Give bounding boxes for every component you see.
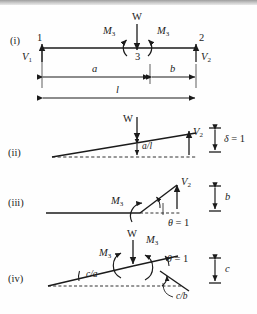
theta-value-iii: = 1 — [175, 217, 189, 228]
rotation-label-c-over-a: c/a — [86, 270, 98, 280]
panel-number-i: (i) — [10, 36, 20, 47]
panel-number-iv: (iv) — [8, 274, 23, 285]
m-subscript-left-i: 3 — [112, 30, 116, 38]
node-label-3: 3 — [135, 52, 140, 63]
scale-label-b: b — [225, 192, 230, 203]
m-glyph-left-i: M — [103, 25, 112, 36]
m-subscript-right-iv: 3 — [155, 239, 159, 247]
moment-label-m3-left-iv: M3 — [99, 248, 111, 260]
displaced-beam-ii — [52, 133, 196, 157]
rotated-segment-iii — [140, 185, 177, 213]
v-subscript-2-i: 2 — [207, 56, 211, 64]
m-subscript-right-i: 3 — [166, 30, 170, 38]
right-segment-lower-iv — [160, 271, 189, 291]
c-over-b-leader-line — [163, 283, 173, 297]
scale-label-c: c — [225, 264, 230, 275]
beam-mechanism-diagram — [0, 0, 257, 314]
reaction-label-v1: V1 — [22, 52, 32, 64]
dimension-label-a: a — [92, 64, 97, 75]
moment-m3-left-arc-iv — [113, 253, 121, 278]
m-glyph-right-i: M — [157, 25, 166, 36]
panel-iv-graphics — [48, 240, 221, 297]
load-label-w-iv: W — [127, 229, 137, 240]
delta-value: = 1 — [231, 133, 245, 144]
m-subscript-iii: 3 — [120, 200, 124, 208]
rotation-label-theta-iv: θ = 1 — [167, 254, 188, 265]
m-glyph-iii: M — [111, 195, 120, 206]
rotation-c-over-a-arc — [79, 271, 80, 281]
panel-i-graphics — [42, 24, 196, 98]
rotation-label-c-over-b: c/b — [176, 292, 188, 302]
delta-glyph: δ — [224, 133, 229, 144]
theta-value-iv: = 1 — [174, 253, 188, 264]
panel-number-iii: (iii) — [8, 198, 24, 209]
panel-number-ii: (ii) — [8, 148, 21, 159]
node-label-1: 1 — [37, 33, 42, 44]
moment-m3-right-arc-iv — [145, 255, 153, 280]
moment-label-m3-right-iv: M3 — [146, 235, 158, 247]
moment-label-m3-left-i: M3 — [103, 26, 115, 38]
panel-iii-graphics — [46, 185, 221, 222]
load-label-w-ii: W — [123, 114, 133, 125]
theta-glyph-iii: θ — [168, 217, 173, 228]
load-label-w-i: W — [132, 12, 142, 23]
ordinate-label-a-over-l: a/l — [142, 142, 152, 152]
node-label-2: 2 — [199, 33, 204, 44]
v-subscript-2-iii: 2 — [187, 181, 191, 189]
m-subscript-left-iv: 3 — [108, 252, 112, 260]
reaction-label-v2-i: V2 — [201, 52, 211, 64]
moment-label-m3-iii: M3 — [111, 196, 123, 208]
reaction-label-v2-ii: V2 — [193, 127, 203, 139]
v-subscript-1: 1 — [28, 56, 32, 64]
m-glyph-right-iv: M — [146, 234, 155, 245]
dimension-label-l: l — [116, 85, 119, 96]
rotation-label-theta-iii: θ = 1 — [168, 218, 189, 229]
m-glyph-left-iv: M — [99, 247, 108, 258]
figure-page: (i) 1 2 3 W M3 M3 V1 V2 a b l (ii) W a/l… — [0, 0, 257, 314]
moment-label-m3-right-i: M3 — [157, 26, 169, 38]
v-subscript-2-ii: 2 — [199, 131, 203, 139]
dimension-label-b: b — [170, 64, 175, 75]
reaction-label-v2-iii: V2 — [181, 177, 191, 189]
theta-glyph-iv: θ — [167, 253, 172, 264]
scale-label-delta: δ = 1 — [224, 134, 245, 145]
